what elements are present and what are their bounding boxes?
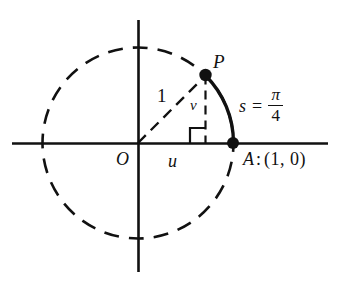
right-angle-marker-icon <box>190 128 205 143</box>
point-a-label: A : (1, 0) <box>243 150 306 168</box>
point-a-coordinates: (1, 0) <box>264 150 306 168</box>
arc-variable: s <box>239 97 246 115</box>
point-a-name: A <box>243 150 254 168</box>
origin-label: O <box>116 150 129 168</box>
unit-circle-figure: P 1 v O u A : (1, 0) s = π 4 <box>0 0 340 285</box>
horizontal-leg-label: u <box>168 152 177 170</box>
arc-P-to-A <box>206 76 234 144</box>
vertical-leg-label: v <box>190 98 197 113</box>
fraction-numerator: π <box>269 86 282 105</box>
radius-length-label: 1 <box>157 86 167 105</box>
point-a-separator: : <box>254 150 264 168</box>
point-a-marker <box>227 137 239 149</box>
arc-equals-sign: = <box>246 97 268 115</box>
arc-length-label: s = π 4 <box>239 86 283 125</box>
arc-value-fraction: π 4 <box>268 86 283 125</box>
fraction-denominator: 4 <box>269 106 282 125</box>
point-p-label: P <box>213 52 225 71</box>
point-p-marker <box>199 69 211 81</box>
figure-canvas <box>0 0 340 285</box>
